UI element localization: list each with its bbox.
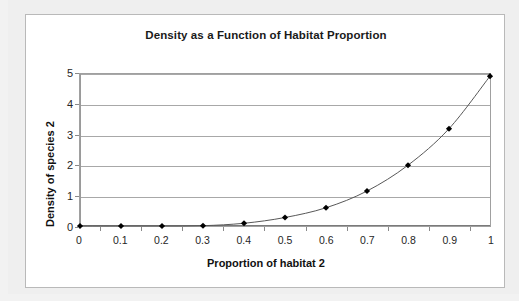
chart-frame: Density as a Function of Habitat Proport… (25, 14, 505, 288)
data-point-marker (77, 223, 83, 229)
x-tick-mark (141, 227, 142, 231)
chart-page: Density as a Function of Habitat Proport… (0, 0, 519, 301)
y-tick-mark (75, 165, 79, 166)
data-point-marker (200, 223, 206, 229)
x-tick-mark (182, 227, 183, 231)
x-axis-title: Proportion of habitat 2 (26, 257, 506, 269)
x-tick-mark (100, 227, 101, 231)
y-tick-label: 4 (53, 98, 73, 110)
data-point-marker (118, 223, 124, 229)
data-point-marker (282, 214, 288, 220)
data-point-marker (241, 220, 247, 226)
x-tick-label: 0.1 (105, 234, 135, 246)
x-tick-label: 0.4 (229, 234, 259, 246)
data-point-marker (364, 188, 370, 194)
y-tick-mark (75, 104, 79, 105)
data-series (80, 74, 490, 226)
x-tick-label: 1 (476, 234, 506, 246)
x-tick-label: 0.5 (270, 234, 300, 246)
x-tick-mark (223, 227, 224, 231)
y-tick-label: 5 (53, 67, 73, 79)
data-point-marker (323, 205, 329, 211)
x-tick-mark (306, 227, 307, 231)
y-tick-mark (75, 135, 79, 136)
x-tick-mark (388, 227, 389, 231)
chart-title: Density as a Function of Habitat Proport… (26, 29, 506, 41)
series-line (80, 76, 490, 226)
x-tick-label: 0.8 (394, 234, 424, 246)
x-tick-label: 0.3 (188, 234, 218, 246)
x-tick-label: 0.7 (352, 234, 382, 246)
y-tick-mark (75, 227, 79, 228)
y-tick-label: 3 (53, 129, 73, 141)
x-tick-mark (347, 227, 348, 231)
x-tick-mark (470, 227, 471, 231)
x-tick-mark (429, 227, 430, 231)
x-tick-label: 0 (64, 234, 94, 246)
x-tick-label: 0.9 (435, 234, 465, 246)
x-tick-mark (264, 227, 265, 231)
x-tick-label: 0.6 (311, 234, 341, 246)
y-tick-mark (75, 196, 79, 197)
plot-area (79, 73, 491, 227)
y-tick-mark (75, 73, 79, 74)
y-tick-label: 2 (53, 159, 73, 171)
data-point-marker (159, 223, 165, 229)
y-tick-label: 1 (53, 190, 73, 202)
x-tick-label: 0.2 (146, 234, 176, 246)
y-tick-label: 0 (53, 221, 73, 233)
